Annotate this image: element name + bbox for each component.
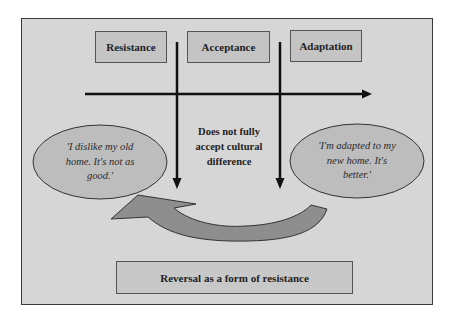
right-quote-line: better.': [302, 168, 412, 183]
right-quote-line: new home. It's: [302, 154, 412, 169]
right-quote-text: 'I'm adapted to my new home. It's better…: [302, 139, 412, 183]
left-quote-line: good.': [45, 169, 155, 184]
center-note-line: Does not fully: [183, 124, 275, 139]
reversal-label: Reversal as a form of resistance: [160, 272, 309, 284]
reversal-arrow-shape: [111, 195, 327, 241]
center-note-line: accept cultural: [183, 139, 275, 154]
reversal-label-box: Reversal as a form of resistance: [116, 261, 353, 294]
center-note-line: difference: [183, 154, 275, 169]
center-note: Does not fully accept cultural differenc…: [183, 124, 275, 169]
left-quote-text: 'I dislike my old home. It's not as good…: [45, 140, 155, 184]
vertical-arrow-right: [276, 42, 285, 189]
left-quote-line: 'I dislike my old: [45, 140, 155, 155]
horizontal-arrow: [85, 90, 372, 99]
right-quote-line: 'I'm adapted to my: [302, 139, 412, 154]
vertical-arrow-left: [173, 42, 182, 189]
left-quote-line: home. It's not as: [45, 155, 155, 170]
